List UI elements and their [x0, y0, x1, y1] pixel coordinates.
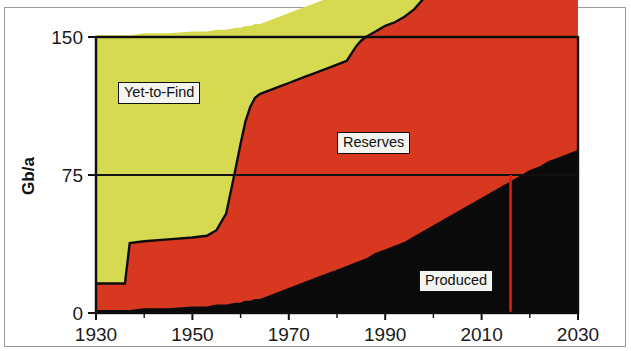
y-tick-label: 0	[72, 303, 83, 324]
y-axis-label: Gb/a	[19, 157, 38, 195]
stacked-areas-group	[96, 0, 578, 313]
label-produced: Produced	[419, 270, 493, 292]
area-chart-svg: 193019501970199020102030075150 Gb/a	[0, 0, 631, 351]
chart-plot-area: 193019501970199020102030075150 Gb/a Yet-…	[0, 0, 631, 351]
label-reserves: Reserves	[337, 132, 410, 154]
y-tick-label: 75	[62, 165, 83, 186]
figure-root: 193019501970199020102030075150 Gb/a Yet-…	[0, 0, 631, 351]
y-tick-label: 150	[51, 27, 83, 48]
x-tick-label: 1930	[75, 324, 117, 345]
x-tick-label: 2030	[557, 324, 599, 345]
x-tick-label: 1950	[171, 324, 213, 345]
x-tick-label: 1990	[364, 324, 406, 345]
x-tick-label: 1970	[268, 324, 310, 345]
x-tick-label: 2010	[460, 324, 502, 345]
label-yet-to-find: Yet-to-Find	[118, 82, 200, 104]
